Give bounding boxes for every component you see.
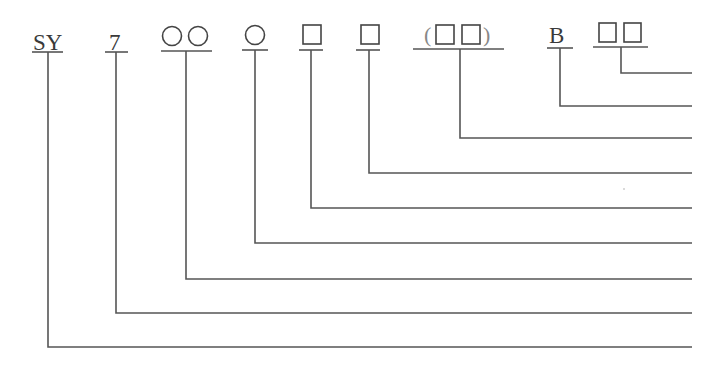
leader-line-two-circles [186, 51, 692, 279]
model-code-diagram: SY 7 ( ) [0, 0, 721, 372]
leader-line-two-squares [621, 47, 692, 73]
speck [623, 188, 625, 190]
leader-line-square-2 [369, 50, 692, 173]
leader-line-7 [116, 52, 692, 313]
segment-two-squares [593, 23, 692, 73]
leader-line-paren-squares [460, 49, 692, 138]
segment-square-1 [299, 25, 692, 208]
paren-close: ) [483, 22, 490, 47]
leader-line-b [560, 48, 692, 106]
segment-circle [242, 26, 692, 244]
segment-7: 7 [105, 30, 692, 313]
paren-open: ( [424, 22, 431, 47]
square-icon [462, 25, 480, 44]
leader-line-sy [48, 52, 692, 347]
segment-sy: SY [32, 30, 692, 347]
circle-icon [246, 26, 265, 45]
segment-two-circles [161, 27, 692, 280]
circle-icon [163, 27, 182, 46]
leader-line-circle [255, 50, 692, 243]
segment-b: B [547, 23, 692, 106]
square-icon [436, 25, 454, 44]
square-icon [599, 23, 616, 42]
square-icon [361, 25, 379, 44]
label-b: B [549, 23, 564, 48]
square-icon [624, 23, 641, 42]
square-icon [303, 25, 321, 44]
circle-icon [189, 27, 208, 46]
